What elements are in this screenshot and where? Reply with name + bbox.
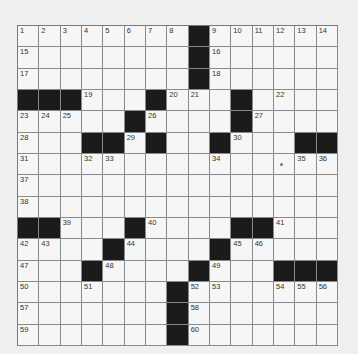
answer-cell[interactable] xyxy=(39,175,60,196)
answer-cell[interactable] xyxy=(295,303,316,324)
answer-cell[interactable]: 30 xyxy=(231,133,252,154)
answer-cell[interactable] xyxy=(253,175,274,196)
answer-cell[interactable] xyxy=(253,133,274,154)
answer-cell[interactable] xyxy=(167,69,188,90)
answer-cell[interactable] xyxy=(317,239,338,260)
answer-cell[interactable] xyxy=(125,303,146,324)
answer-cell[interactable]: 46 xyxy=(253,239,274,260)
answer-cell[interactable] xyxy=(103,325,124,346)
answer-cell[interactable] xyxy=(125,175,146,196)
answer-cell[interactable] xyxy=(210,90,231,111)
answer-cell[interactable] xyxy=(317,325,338,346)
answer-cell[interactable]: 22 xyxy=(274,90,295,111)
answer-cell[interactable]: 40 xyxy=(146,218,167,239)
answer-cell[interactable] xyxy=(103,303,124,324)
answer-cell[interactable] xyxy=(231,47,252,68)
answer-cell[interactable]: 50 xyxy=(18,282,39,303)
answer-cell[interactable]: 45 xyxy=(231,239,252,260)
answer-cell[interactable] xyxy=(295,197,316,218)
answer-cell[interactable] xyxy=(253,47,274,68)
answer-cell[interactable]: 15 xyxy=(18,47,39,68)
answer-cell[interactable]: 11 xyxy=(253,26,274,47)
answer-cell[interactable]: 53 xyxy=(210,282,231,303)
answer-cell[interactable]: 57 xyxy=(18,303,39,324)
answer-cell[interactable] xyxy=(231,282,252,303)
answer-cell[interactable]: 4 xyxy=(82,26,103,47)
answer-cell[interactable] xyxy=(231,261,252,282)
answer-cell[interactable]: 9 xyxy=(210,26,231,47)
answer-cell[interactable] xyxy=(253,325,274,346)
answer-cell[interactable] xyxy=(295,325,316,346)
answer-cell[interactable] xyxy=(103,90,124,111)
answer-cell[interactable] xyxy=(167,197,188,218)
answer-cell[interactable] xyxy=(317,218,338,239)
answer-cell[interactable] xyxy=(125,282,146,303)
answer-cell[interactable] xyxy=(82,303,103,324)
answer-cell[interactable]: 3 xyxy=(61,26,82,47)
answer-cell[interactable]: 59 xyxy=(18,325,39,346)
answer-cell[interactable]: 23 xyxy=(18,111,39,132)
answer-cell[interactable] xyxy=(274,325,295,346)
answer-cell[interactable] xyxy=(167,239,188,260)
answer-cell[interactable] xyxy=(231,303,252,324)
answer-cell[interactable] xyxy=(167,47,188,68)
answer-cell[interactable]: 12 xyxy=(274,26,295,47)
answer-cell[interactable] xyxy=(317,111,338,132)
answer-cell[interactable] xyxy=(210,197,231,218)
answer-cell[interactable]: 60 xyxy=(189,325,210,346)
answer-cell[interactable]: 49 xyxy=(210,261,231,282)
answer-cell[interactable] xyxy=(61,154,82,175)
answer-cell[interactable] xyxy=(39,133,60,154)
answer-cell[interactable] xyxy=(125,154,146,175)
answer-cell[interactable] xyxy=(103,69,124,90)
answer-cell[interactable]: 33 xyxy=(103,154,124,175)
answer-cell[interactable] xyxy=(189,154,210,175)
answer-cell[interactable] xyxy=(82,175,103,196)
answer-cell[interactable] xyxy=(146,325,167,346)
answer-cell[interactable] xyxy=(82,239,103,260)
answer-cell[interactable] xyxy=(274,133,295,154)
answer-cell[interactable] xyxy=(146,197,167,218)
answer-cell[interactable] xyxy=(125,90,146,111)
answer-cell[interactable] xyxy=(61,47,82,68)
answer-cell[interactable]: 35 xyxy=(295,154,316,175)
answer-cell[interactable] xyxy=(274,239,295,260)
answer-cell[interactable] xyxy=(295,90,316,111)
answer-cell[interactable]: 28 xyxy=(18,133,39,154)
answer-cell[interactable] xyxy=(61,69,82,90)
answer-cell[interactable]: 36 xyxy=(317,154,338,175)
answer-cell[interactable] xyxy=(103,218,124,239)
answer-cell[interactable] xyxy=(295,47,316,68)
answer-cell[interactable] xyxy=(61,282,82,303)
answer-cell[interactable]: 56 xyxy=(317,282,338,303)
answer-cell[interactable] xyxy=(167,133,188,154)
answer-cell[interactable]: 16 xyxy=(210,47,231,68)
answer-cell[interactable] xyxy=(231,69,252,90)
answer-cell[interactable] xyxy=(231,325,252,346)
answer-cell[interactable] xyxy=(103,282,124,303)
answer-cell[interactable] xyxy=(167,154,188,175)
answer-cell[interactable]: 42 xyxy=(18,239,39,260)
answer-cell[interactable]: 44 xyxy=(125,239,146,260)
answer-cell[interactable] xyxy=(167,111,188,132)
answer-cell[interactable]: 34 xyxy=(210,154,231,175)
answer-cell[interactable] xyxy=(317,47,338,68)
answer-cell[interactable]: 51 xyxy=(82,282,103,303)
answer-cell[interactable] xyxy=(210,303,231,324)
answer-cell[interactable] xyxy=(274,111,295,132)
answer-cell[interactable] xyxy=(167,218,188,239)
answer-cell[interactable]: 5 xyxy=(103,26,124,47)
answer-cell[interactable] xyxy=(82,111,103,132)
answer-cell[interactable] xyxy=(317,303,338,324)
answer-cell[interactable] xyxy=(125,47,146,68)
answer-cell[interactable]: 2 xyxy=(39,26,60,47)
answer-cell[interactable]: 55 xyxy=(295,282,316,303)
answer-cell[interactable] xyxy=(295,175,316,196)
answer-cell[interactable] xyxy=(39,325,60,346)
answer-cell[interactable] xyxy=(210,175,231,196)
answer-cell[interactable] xyxy=(103,47,124,68)
answer-cell[interactable] xyxy=(274,175,295,196)
answer-cell[interactable]: 41 xyxy=(274,218,295,239)
answer-cell[interactable]: 1 xyxy=(18,26,39,47)
answer-cell[interactable]: 20 xyxy=(167,90,188,111)
